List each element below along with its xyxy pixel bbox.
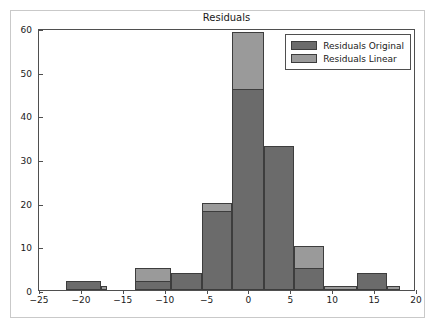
- bar-residuals-original: [357, 273, 387, 290]
- chart-legend[interactable]: Residuals Original Residuals Linear: [285, 34, 411, 70]
- x-tick: [416, 290, 417, 294]
- plot-axes: −25−20−15−10−5051015200102030405060 Resi…: [38, 29, 415, 291]
- y-tick: [39, 74, 43, 75]
- bar-residuals-original: [294, 268, 324, 290]
- figure-canvas: Residuals −25−20−15−10−50510152001020304…: [0, 0, 435, 329]
- y-tick: [39, 292, 43, 293]
- bar-residuals-linear: [324, 286, 357, 290]
- legend-swatch-original: [291, 41, 317, 50]
- chart-title: Residuals: [38, 11, 415, 25]
- legend-label-linear: Residuals Linear: [323, 54, 397, 64]
- bar-residuals-linear: [387, 286, 400, 290]
- bar-residuals-original: [171, 273, 201, 290]
- y-tick: [39, 248, 43, 249]
- x-tick: [248, 290, 249, 294]
- x-tick-label: 15: [368, 295, 379, 305]
- x-tick-label: −15: [113, 295, 132, 305]
- x-tick-label: −25: [30, 295, 49, 305]
- x-tick-label: −10: [155, 295, 174, 305]
- bar-residuals-original: [66, 281, 101, 290]
- bar-residuals-original: [232, 89, 265, 290]
- y-tick-label: 20: [21, 200, 32, 210]
- bar-residuals-original: [135, 281, 172, 290]
- y-tick-label: 30: [21, 156, 32, 166]
- x-tick: [165, 290, 166, 294]
- bar-residuals-linear: [101, 286, 107, 290]
- y-tick-label: 10: [21, 243, 32, 253]
- bar-residuals-original: [202, 211, 232, 290]
- y-tick: [39, 161, 43, 162]
- y-tick: [39, 205, 43, 206]
- legend-label-original: Residuals Original: [323, 41, 404, 51]
- y-tick: [39, 117, 43, 118]
- x-tick: [81, 290, 82, 294]
- x-tick: [290, 290, 291, 294]
- bar-residuals-original: [264, 146, 293, 290]
- x-tick: [207, 290, 208, 294]
- legend-item-original: Residuals Original: [291, 39, 404, 52]
- x-tick: [374, 290, 375, 294]
- y-tick-label: 40: [21, 112, 32, 122]
- y-tick-label: 60: [21, 25, 32, 35]
- x-tick: [123, 290, 124, 294]
- x-tick-label: 0: [246, 295, 252, 305]
- y-tick-label: 50: [21, 69, 32, 79]
- y-tick: [39, 30, 43, 31]
- x-tick-label: −5: [200, 295, 213, 305]
- x-tick-label: 5: [287, 295, 293, 305]
- x-tick: [332, 290, 333, 294]
- x-tick-label: 10: [326, 295, 337, 305]
- legend-item-linear: Residuals Linear: [291, 52, 404, 65]
- x-tick-label: −20: [71, 295, 90, 305]
- y-tick-label: 0: [26, 287, 32, 297]
- x-tick-label: 20: [410, 295, 421, 305]
- legend-swatch-linear: [291, 54, 317, 63]
